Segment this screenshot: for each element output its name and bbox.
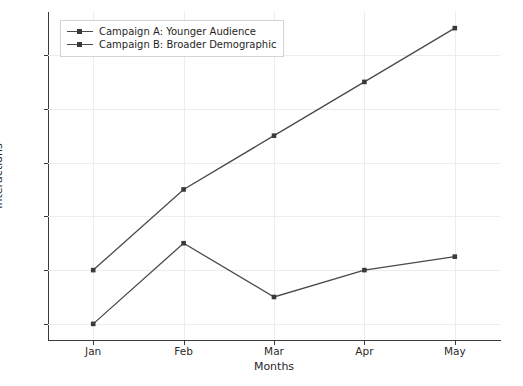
x-tick-label: Feb — [174, 345, 193, 357]
chart-legend: Campaign A: Younger Audience Campaign B:… — [60, 20, 284, 57]
plot-area — [48, 12, 500, 340]
legend-item-campaign-a: Campaign A: Younger Audience — [67, 25, 276, 38]
chart-figure: Interactions Months 100120140160180200 J… — [0, 0, 523, 386]
legend-item-campaign-b: Campaign B: Broader Demographic — [67, 38, 276, 51]
x-tick-label: Jan — [85, 345, 101, 357]
legend-line-marker-icon — [67, 26, 93, 37]
x-axis-label: Months — [254, 360, 294, 373]
x-tick-label: May — [444, 345, 466, 357]
data-point-marker — [453, 254, 458, 259]
x-tick-mark — [274, 341, 275, 345]
series-line-campaign-a — [93, 28, 455, 270]
x-tick-mark — [184, 341, 185, 345]
x-tick-mark — [364, 341, 365, 345]
x-tick-mark — [455, 341, 456, 345]
data-point-marker — [272, 133, 277, 138]
x-tick-mark — [93, 341, 94, 345]
legend-label-campaign-a: Campaign A: Younger Audience — [99, 26, 256, 37]
data-point-marker — [453, 26, 458, 31]
y-axis-label: Interactions — [0, 143, 5, 208]
data-point-marker — [181, 187, 186, 192]
data-point-marker — [362, 80, 367, 85]
data-point-marker — [91, 322, 96, 327]
data-point-marker — [362, 268, 367, 273]
legend-label-campaign-b: Campaign B: Broader Demographic — [99, 39, 276, 50]
series-line-campaign-b — [93, 243, 455, 324]
x-tick-label: Apr — [355, 345, 373, 357]
data-point-marker — [181, 241, 186, 246]
x-tick-label: Mar — [264, 345, 284, 357]
data-point-marker — [272, 295, 277, 300]
data-point-marker — [91, 268, 96, 273]
series-container — [48, 12, 500, 340]
legend-line-marker-icon — [67, 39, 93, 50]
